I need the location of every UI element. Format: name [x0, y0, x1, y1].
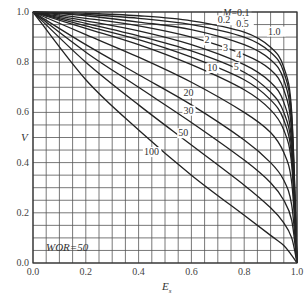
- x-tick-label: 0.4: [132, 266, 145, 277]
- y-tick-label: 0.4: [17, 157, 30, 168]
- y-tick-label: 0.0: [17, 257, 30, 268]
- x-tick-label: 1.0: [291, 266, 304, 277]
- curve-label: 4: [236, 49, 241, 60]
- chart: M=0.10.20.51.0234105203050100 0.00.20.40…: [0, 0, 304, 300]
- curve-label: 0.2: [218, 14, 231, 25]
- x-tick-label: 0.8: [238, 266, 251, 277]
- curve-label: 1.0: [268, 26, 281, 37]
- y-axis-label: V: [21, 131, 29, 143]
- curve-label: 20: [183, 87, 193, 98]
- x-tick-label: 0.6: [185, 266, 198, 277]
- x-axis-label: Es: [161, 280, 172, 295]
- annotation-wor: WOR=50: [46, 241, 89, 253]
- curve-label: 100: [144, 146, 159, 157]
- y-tick-label: 0.6: [17, 106, 30, 117]
- curve-label: 10: [207, 62, 217, 73]
- curve-label: 5: [234, 61, 239, 72]
- y-tick-label: 1.0: [17, 6, 30, 17]
- curve-label: 2: [205, 34, 210, 45]
- curve-label: 50: [178, 127, 188, 138]
- curve-label: 3: [223, 42, 228, 53]
- x-tick-label: 0.2: [80, 266, 93, 277]
- y-tick-label: 0.8: [17, 56, 30, 67]
- curve-label: 0.5: [236, 18, 249, 29]
- y-tick-label: 0.2: [17, 207, 30, 218]
- curve-label: 30: [183, 105, 193, 116]
